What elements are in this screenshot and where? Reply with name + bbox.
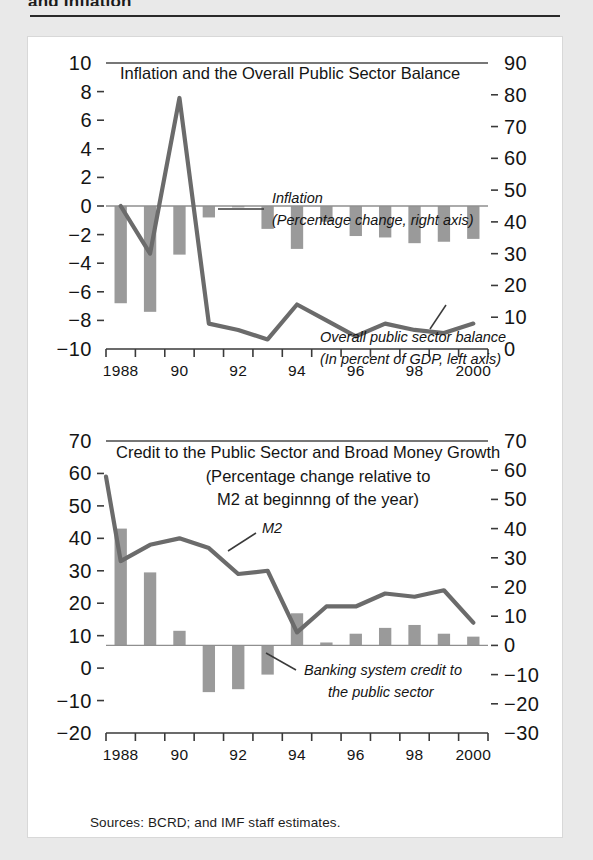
right-axis-tick-label: 10 [504,605,527,627]
left-axis-tick-label: −4 [68,252,92,274]
right-axis-tick-label: 20 [504,576,527,598]
x-axis-tick-label: 90 [171,362,189,379]
m2-leader-line [228,533,256,551]
left-axis-tick-label: 6 [80,109,92,131]
right-axis-tick-label: 60 [504,147,527,169]
right-axis-tick-label: 30 [504,243,527,265]
right-axis-tick-label: 40 [504,518,527,540]
left-axis-tick-label: 50 [69,495,92,517]
left-axis-tick-label: −8 [68,309,92,331]
left-axis-tick-label: 20 [69,592,92,614]
chart1-title: Inflation and the Overall Public Sector … [120,64,460,82]
data-bar [203,645,215,692]
right-axis-tick-label: 20 [504,274,527,296]
data-bar [467,637,479,646]
left-axis-tick-label: 2 [80,166,92,188]
chart-credit-money: 706050403020100−10−20706050403020100−10−… [28,415,562,805]
left-axis-tick-label: 0 [80,195,92,217]
right-axis-tick-label: 70 [504,430,527,452]
x-axis-tick-label: 2000 [455,746,491,763]
data-bar [173,206,185,255]
data-bar [379,628,391,646]
data-bar [173,631,185,646]
title-divider [30,15,560,17]
data-bar [115,206,127,303]
sources-note: Sources: BCRD; and IMF staff estimates. [90,815,341,830]
balance-annotation-line1: Overall public sector balance [320,329,506,345]
x-axis-tick-label: 90 [171,746,189,763]
data-bar [261,645,273,674]
credit-annotation-line1: Banking system credit to [304,662,462,678]
x-axis-tick-label: 96 [347,746,365,763]
chart2-subtitle-line1: (Percentage change relative to [206,467,431,485]
left-axis-tick-label: −2 [68,224,92,246]
left-axis-tick-label: 10 [69,625,92,647]
x-axis-tick-label: 98 [406,746,424,763]
data-bar [144,572,156,645]
right-axis-tick-label: 50 [504,488,527,510]
page-background: and Inflation 1086420−2−4−6−8−1090807060… [0,0,593,860]
right-axis-tick-label: 90 [504,52,527,74]
right-axis-tick-label: 50 [504,179,527,201]
chart1-canvas: 1086420−2−4−6−8−109080706050403020100198… [28,37,562,407]
left-axis-tick-label: 8 [80,81,92,103]
chart2-title: Credit to the Public Sector and Broad Mo… [116,443,500,461]
inflation-annotation-line1: Inflation [272,190,323,206]
chart-inflation-balance: 1086420−2−4−6−8−109080706050403020100198… [28,37,562,407]
left-axis-tick-label: 70 [69,430,92,452]
left-axis-tick-label: −10 [57,690,92,712]
right-axis-tick-label: −30 [504,722,539,744]
right-axis-tick-label: 10 [504,306,527,328]
right-axis-tick-label: −20 [504,693,539,715]
data-bar [203,206,215,217]
left-axis-tick-label: 4 [80,138,92,160]
right-axis-tick-label: 40 [504,211,527,233]
left-axis-tick-label: −20 [57,722,92,744]
right-axis-tick-label: 70 [504,116,527,138]
left-axis-tick-label: −6 [68,281,92,303]
right-axis-tick-label: 60 [504,459,527,481]
balance-leader-line [430,305,446,329]
left-axis-tick-label: 40 [69,527,92,549]
left-axis-tick-label: 0 [80,657,92,679]
m2-annotation-label: M2 [262,520,282,536]
inflation-annotation-line2: (Percentage change, right axis) [272,212,474,228]
data-bar [438,634,450,646]
right-axis-tick-label: 30 [504,547,527,569]
left-axis-tick-label: 10 [69,52,92,74]
x-axis-tick-label: 94 [288,746,306,763]
chart2-canvas: 706050403020100−10−20706050403020100−10−… [28,415,562,805]
left-axis-tick-label: 30 [69,560,92,582]
left-axis-tick-label: 60 [69,462,92,484]
x-axis-tick-label: 1988 [103,746,139,763]
data-bar [408,625,420,645]
data-bar [232,645,244,689]
page-title: and Inflation [28,0,132,6]
balance-annotation-line2: (In percent of GDP, left axis) [320,351,501,367]
right-axis-tick-label: −10 [504,664,539,686]
chart2-subtitle-line2: M2 at beginnng of the year) [217,490,419,508]
left-axis-tick-label: −10 [57,338,92,360]
figure-panel: 1086420−2−4−6−8−109080706050403020100198… [28,37,562,837]
x-axis-tick-label: 1988 [103,362,139,379]
credit-annotation-line2: the public sector [328,684,435,700]
right-axis-tick-label: 80 [504,84,527,106]
x-axis-tick-label: 94 [288,362,306,379]
x-axis-tick-label: 92 [229,746,247,763]
x-axis-tick-label: 92 [229,362,247,379]
right-axis-tick-label: 0 [504,634,516,656]
data-bar [350,634,362,646]
